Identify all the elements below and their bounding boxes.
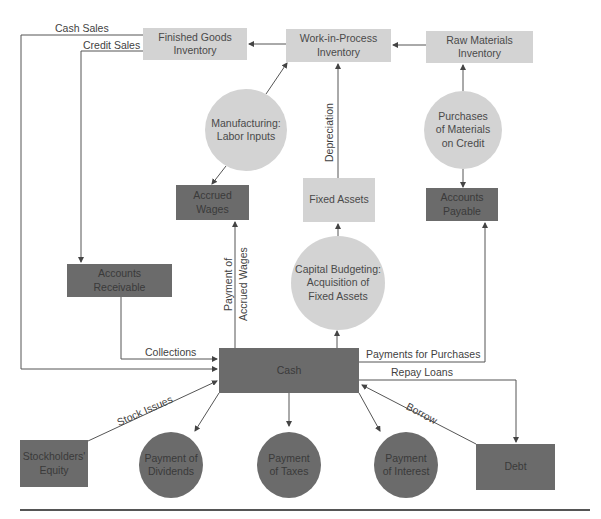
payments-for-purchases-label: Payments for Purchases xyxy=(366,348,480,360)
accounts-receivable-node: Accounts Receivable xyxy=(67,264,172,297)
fixed-assets-node: Fixed Assets xyxy=(303,178,375,222)
purchases-label: Purchases of Materials on Credit xyxy=(436,110,490,149)
fixed-assets-label: Fixed Assets xyxy=(309,193,369,206)
payment-of-label: Payment of xyxy=(222,258,234,311)
bottom-rule xyxy=(20,509,590,511)
payment-of-taxes-node: Payment of Taxes xyxy=(257,432,321,498)
accounts-payable-label: Accounts Payable xyxy=(440,191,483,217)
work-in-process-inventory-node: Work-in-Process Inventory xyxy=(286,29,391,62)
capital-budgeting-node: Capital Budgeting: Acquisition of Fixed … xyxy=(291,236,385,330)
cash-node: Cash xyxy=(219,348,359,393)
dividends-label: Payment of Dividends xyxy=(144,452,197,478)
debt-label: Debt xyxy=(504,460,526,473)
raw-materials-label: Raw Materials Inventory xyxy=(446,34,513,60)
finished-goods-label: Finished Goods Inventory xyxy=(158,31,232,57)
cash-label: Cash xyxy=(277,364,302,377)
taxes-label: Payment of Taxes xyxy=(268,452,309,478)
stockholders-equity-label: Stockholders' Equity xyxy=(23,450,86,476)
stockholders-equity-node: Stockholders' Equity xyxy=(20,440,88,487)
purchases-of-materials-node: Purchases of Materials on Credit xyxy=(424,91,502,169)
accrued-wages-node: Accrued Wages xyxy=(176,185,249,220)
raw-materials-inventory-node: Raw Materials Inventory xyxy=(426,31,533,63)
repay-loans-label: Repay Loans xyxy=(391,366,453,378)
accrued-wages-edge-label: Accrued Wages xyxy=(237,247,249,321)
finished-goods-inventory-node: Finished Goods Inventory xyxy=(143,28,247,60)
manufacturing-label: Manufacturing: Labor Inputs xyxy=(211,117,280,143)
collections-label: Collections xyxy=(145,346,196,358)
credit-sales-label: Credit Sales xyxy=(83,39,140,51)
interest-label: Payment of Interest xyxy=(383,452,430,478)
debt-node: Debt xyxy=(476,444,555,490)
wip-label: Work-in-Process Inventory xyxy=(300,32,377,58)
accounts-payable-node: Accounts Payable xyxy=(426,188,498,221)
capital-budgeting-label: Capital Budgeting: Acquisition of Fixed … xyxy=(295,263,381,302)
payment-of-dividends-node: Payment of Dividends xyxy=(139,432,203,498)
cash-sales-label: Cash Sales xyxy=(55,22,109,34)
depreciation-label: Depreciation xyxy=(323,103,335,162)
manufacturing-labor-inputs-node: Manufacturing: Labor Inputs xyxy=(205,89,287,171)
payment-of-interest-node: Payment of Interest xyxy=(374,432,438,498)
accounts-receivable-label: Accounts Receivable xyxy=(94,267,146,293)
accrued-wages-label: Accrued Wages xyxy=(193,189,232,215)
